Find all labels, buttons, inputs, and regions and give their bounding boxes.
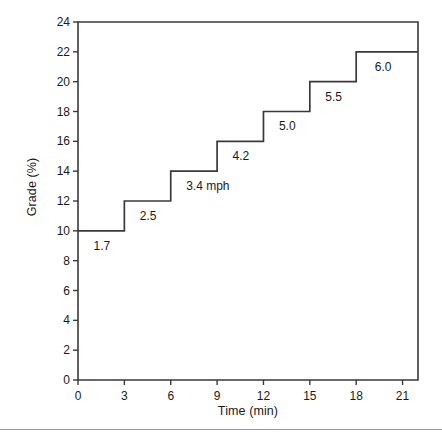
y-axis-title: Grade (%) [25, 127, 39, 247]
speed-annotation: 3.4 mph [186, 180, 229, 192]
x-tick-label: 18 [341, 390, 371, 402]
x-tick-label: 6 [156, 390, 186, 402]
speed-annotation: 1.7 [93, 240, 110, 252]
x-tick-label: 9 [202, 390, 232, 402]
speed-annotation: 4.2 [233, 150, 250, 162]
speed-annotation: 5.0 [279, 120, 296, 132]
speed-annotation: 5.5 [325, 91, 342, 103]
x-tick-label: 0 [63, 390, 93, 402]
footer-divider [0, 429, 442, 430]
speed-annotation: 6.0 [375, 61, 392, 73]
x-axis-title: Time (min) [78, 404, 418, 418]
speed-annotation: 2.5 [140, 210, 157, 222]
footer-caption [22, 436, 422, 446]
x-tick-label: 21 [388, 390, 418, 402]
x-tick-label: 12 [248, 390, 278, 402]
x-tick-label: 3 [109, 390, 139, 402]
chart-figure: 024681012141618202224 036912151821 1.72.… [0, 0, 442, 446]
x-tick-label: 15 [295, 390, 325, 402]
